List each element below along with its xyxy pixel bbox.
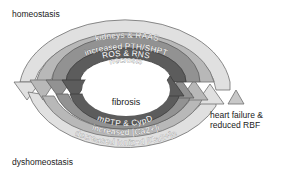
label-heart-failure-line2: reduced RBF (210, 121, 263, 131)
center-region (82, 64, 170, 116)
center-label-fibrosis: fibrosis (112, 97, 141, 107)
cycle-diagram: kidneys & RAAS increased PTH/SHPT ROS & … (0, 0, 281, 176)
label-homeostasis: homeostasis (12, 10, 60, 20)
label-heart-failure: heart failure & reduced RBF (210, 111, 263, 131)
label-dyshomeostasis: dyshomeostasis (12, 158, 73, 168)
small-up-arrow-icon (228, 90, 244, 104)
